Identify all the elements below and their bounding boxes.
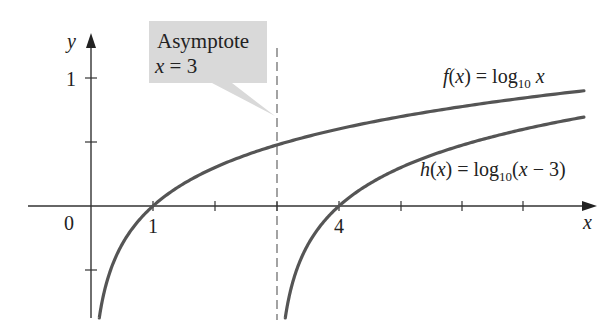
x-tick-label-4: 4 [334,215,344,237]
x-axis [28,201,597,211]
y-axis-label: y [65,30,76,53]
y-axis [85,33,97,318]
h-curve [285,117,584,318]
h-function-label: h(x) = log10(x − 3) [420,158,566,184]
chart-canvas: y x 0 1 4 1 Asymptote x = 3 f(x) = log10… [0,0,614,335]
x-axis-label: x [582,211,592,233]
callout-line1: Asymptote [157,29,249,53]
log-graph-figure: y x 0 1 4 1 Asymptote x = 3 f(x) = log10… [0,0,614,335]
callout-line2: x = 3 [154,54,197,78]
origin-label: 0 [64,212,74,234]
y-axis-arrow-icon [86,33,96,48]
x-tick-label-1: 1 [148,215,158,237]
x-axis-arrow-icon [582,201,597,211]
y-tick-label-1: 1 [66,68,76,90]
f-function-label: f(x) = log10 x [443,65,545,91]
